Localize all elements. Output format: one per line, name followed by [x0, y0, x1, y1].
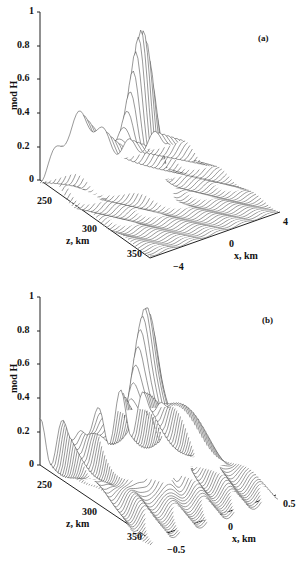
depth-tick: 250: [37, 195, 52, 206]
tick: 0.4: [17, 391, 30, 402]
tick: 0.2: [17, 140, 30, 151]
x-label: x, km: [232, 533, 256, 544]
depth-label: z, km: [66, 518, 89, 529]
x-tick: −0.5: [167, 544, 185, 555]
tick: 0.6: [17, 72, 30, 83]
surface-plot-b: [0, 281, 304, 562]
tick: 0.4: [17, 106, 30, 117]
x-tick: 0: [229, 238, 234, 249]
tick: 1: [29, 290, 34, 301]
tick: 0.8: [17, 324, 30, 335]
depth-tick: 350: [127, 248, 142, 259]
depth-tick: 350: [127, 531, 142, 542]
panel-tag: (a): [258, 33, 269, 43]
tick: 0.2: [17, 425, 30, 436]
z-axis-label: mod H: [8, 364, 19, 393]
tick: 0.6: [17, 357, 30, 368]
x-tick: 0.5: [283, 498, 296, 509]
depth-tick: 250: [37, 479, 52, 490]
depth-label: z, km: [66, 235, 89, 246]
x-tick: 4: [283, 216, 288, 227]
depth-tick: 300: [82, 506, 97, 517]
panel-b: (b) mod H 1 0.8 0.6 0.4 0.2 0 250 300 z,…: [0, 281, 304, 562]
x-tick: −4: [173, 261, 184, 272]
depth-tick: 300: [82, 223, 97, 234]
panel-a: (a) mod H 1 0.8 0.6 0.4 0.2 0 250 300 z,…: [0, 0, 304, 281]
tick: 0: [29, 173, 34, 184]
panel-tag: (b): [262, 315, 273, 325]
tick: 1: [29, 5, 34, 16]
x-label: x, km: [234, 250, 258, 261]
tick: 0.8: [17, 39, 30, 50]
tick: 0: [29, 458, 34, 469]
x-tick: 0: [228, 521, 233, 532]
